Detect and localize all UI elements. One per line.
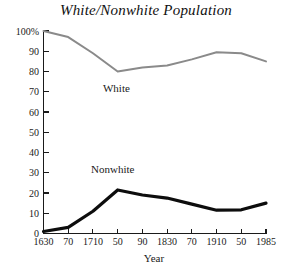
- x-tick-label: 50: [113, 236, 123, 247]
- y-tick-label: 20: [29, 188, 39, 199]
- x-tick-label: 1910: [207, 236, 227, 247]
- series-line-white: [44, 31, 267, 72]
- y-tick-label: 60: [29, 107, 39, 118]
- y-tick-label: 90: [29, 46, 39, 57]
- x-tick-label: 50: [236, 236, 246, 247]
- x-axis-tick-marks: [44, 229, 267, 234]
- series-line-nonwhite: [44, 190, 267, 232]
- y-tick-label: 40: [29, 147, 39, 158]
- x-tick-label: 1630: [34, 236, 54, 247]
- chart-figure: White/Nonwhite Population 01020304050607…: [0, 0, 292, 269]
- x-axis-tick-labels: 163070171050901830701910501985: [34, 236, 277, 247]
- y-tick-label: 70: [29, 86, 39, 97]
- x-tick-label: 70: [187, 236, 197, 247]
- x-tick-label: 70: [63, 236, 73, 247]
- series-label-white: White: [103, 82, 130, 94]
- y-tick-label: 50: [29, 127, 39, 138]
- series-label-nonwhite: Nonwhite: [91, 163, 135, 175]
- x-tick-label: 1710: [83, 236, 103, 247]
- y-axis-tick-labels: 0102030405060708090100%: [16, 26, 39, 240]
- x-tick-label: 90: [137, 236, 147, 247]
- y-tick-label: 30: [29, 167, 39, 178]
- line-chart-plot: 0102030405060708090100% 1630701710509018…: [0, 0, 292, 269]
- y-tick-label: 10: [29, 208, 39, 219]
- y-axis-tick-marks: [44, 31, 49, 234]
- y-tick-label: 80: [29, 66, 39, 77]
- y-tick-label: 100%: [16, 26, 39, 37]
- x-axis-title: Year: [144, 252, 165, 264]
- x-tick-label: 1985: [256, 236, 276, 247]
- x-tick-label: 1830: [157, 236, 177, 247]
